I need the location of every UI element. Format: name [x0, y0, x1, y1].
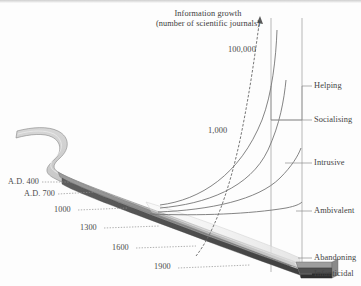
parenting-modes-ribbon: [16, 128, 300, 275]
category-connectors: [271, 86, 312, 274]
figure-graphic: [0, 0, 361, 286]
leader-1600: [136, 246, 196, 248]
leader-1300: [104, 226, 160, 228]
figure-title-line2: (number of scientific journals): [148, 19, 268, 29]
category-label-abandoning: Abandoning: [314, 253, 356, 264]
category-label-socialising: Socialising: [314, 115, 352, 126]
category-label-ambivalent: Ambivalent: [314, 206, 355, 217]
date-label-1000: 1000: [54, 205, 71, 215]
mode-trend-curves: [150, 30, 302, 215]
figure-title-line1: Information growth: [148, 9, 268, 19]
curve-helping: [160, 30, 277, 205]
date-leader-lines: [42, 182, 250, 268]
date-label-1900: 1900: [154, 262, 171, 272]
figure-title: Information growth (number of scientific…: [148, 9, 268, 30]
leader-1000: [78, 208, 128, 210]
curve-intrusive: [158, 148, 301, 212]
category-label-infanticidal: Infanticidal: [314, 269, 354, 280]
scale-label-100000: 100,000: [228, 45, 256, 56]
date-label-ad-700: A.D. 700: [24, 189, 55, 199]
date-label-1300: 1300: [80, 223, 97, 233]
leader-1900: [178, 265, 250, 268]
curve-socialising: [160, 80, 286, 208]
scale-label-1000: 1,000: [208, 126, 227, 137]
date-label-1600: 1600: [112, 243, 129, 253]
category-label-intrusive: Intrusive: [314, 158, 345, 169]
connector-helping: [271, 86, 312, 120]
category-label-helping: Helping: [314, 81, 342, 92]
parenting-styles-information-growth-figure: Information growth (number of scientific…: [0, 0, 361, 286]
date-label-ad-400: A.D. 400: [8, 177, 39, 187]
wedge-abandoning: [146, 202, 300, 268]
